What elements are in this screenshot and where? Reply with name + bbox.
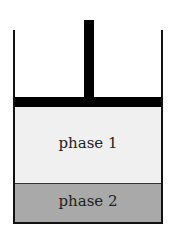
phase-2-label: phase 2 [15, 192, 161, 210]
phase-1-label: phase 1 [15, 134, 161, 152]
phase-2-region: phase 2 [15, 184, 161, 222]
bottom-wall [13, 222, 163, 224]
piston-plate [15, 97, 161, 107]
right-wall [161, 30, 163, 223]
phase-1-region: phase 1 [15, 107, 161, 183]
piston-rod [84, 20, 94, 100]
